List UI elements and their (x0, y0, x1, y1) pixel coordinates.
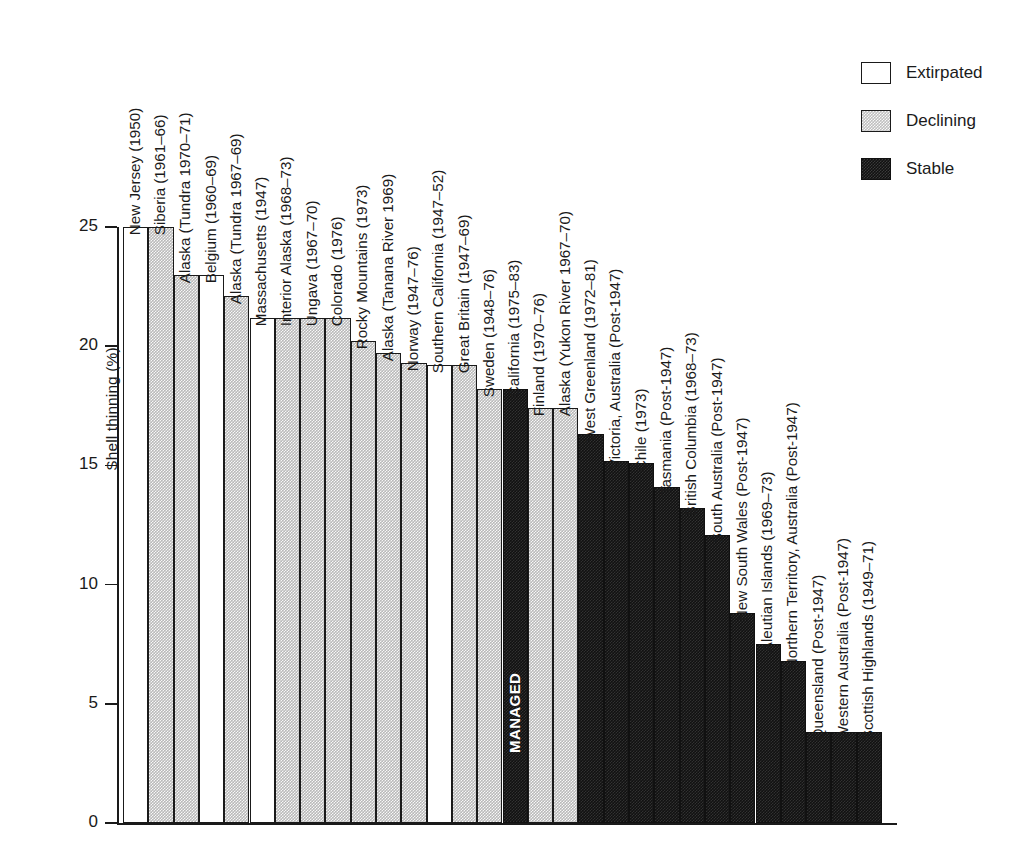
bar (452, 365, 477, 823)
bar (300, 318, 325, 823)
y-axis-tick (105, 226, 117, 228)
bar-category-label: Finland (1970–76) (531, 293, 546, 416)
legend-label-stable: Stable (906, 159, 954, 179)
bar-category-label: Colorado (1976) (329, 216, 344, 326)
shell-thinning-bar-chart: Shell thinning (%) 0510152025 Extirpated… (0, 0, 1015, 868)
y-axis-tick-label: 20 (58, 335, 98, 355)
bar (325, 318, 350, 823)
bar (148, 227, 173, 823)
bar (553, 408, 578, 823)
bar (477, 389, 502, 823)
bar (351, 341, 376, 823)
bar-category-label: Belgium (1960–69) (202, 155, 217, 283)
y-axis-tick (105, 703, 117, 705)
legend-item-declining: Declining (861, 110, 1011, 132)
bar-category-label: Victoria, Australia (Post-1947) (607, 268, 622, 469)
bar (174, 275, 199, 823)
legend-swatch-stable-icon (861, 158, 891, 180)
bar (680, 508, 705, 823)
bar (123, 227, 148, 823)
legend-label-extirpated: Extirpated (906, 63, 983, 83)
bar-category-label: Scottish Highlands (1949–71) (860, 541, 875, 740)
bar (578, 434, 603, 823)
x-axis-line (117, 823, 897, 825)
bar-category-label: Alaska (Yukon River 1967–70) (557, 211, 572, 416)
y-axis-tick (105, 345, 117, 347)
bar-category-label: Alaska (Tundra 1967–69) (228, 134, 243, 305)
bar-category-label: Northern Territory, Australia (Post-1947… (784, 402, 799, 669)
bar (224, 296, 249, 823)
bar-category-label: Chile (1973) (632, 388, 647, 471)
bar-category-label: Sweden (1948–76) (481, 269, 496, 397)
y-axis-tick (105, 822, 117, 824)
bar (730, 613, 755, 823)
bar-category-label: Queensland (Post-1947) (810, 575, 825, 740)
bar-category-label: Great Britain (1947–69) (455, 215, 470, 374)
y-axis-tick-label: 15 (58, 454, 98, 474)
bar (401, 363, 426, 823)
bar (654, 487, 679, 823)
bar-category-label: British Columbia (1968–73) (683, 332, 698, 516)
bar (427, 365, 452, 823)
bar-category-label: Southern California (1947–52) (430, 170, 445, 373)
bar (629, 463, 654, 823)
bar (199, 275, 224, 823)
bar-category-label: Ungava (1967–70) (304, 200, 319, 326)
bar (376, 353, 401, 823)
bar-category-label: Aleutian Islands (1969–73) (759, 472, 774, 653)
bar (528, 408, 553, 823)
legend-swatch-declining-icon (861, 110, 891, 132)
legend-label-declining: Declining (906, 111, 976, 131)
bar (705, 535, 730, 823)
bar (781, 661, 806, 823)
bar-category-label: Rocky Mountains (1973) (354, 185, 369, 350)
bar (831, 732, 856, 823)
y-axis-line (117, 227, 119, 824)
bar (604, 461, 629, 823)
y-axis-tick-label: 25 (58, 216, 98, 236)
bar (806, 732, 831, 823)
legend-swatch-extirpated-icon (861, 62, 891, 84)
bar-category-label: West Greenland (1972–81) (582, 260, 597, 443)
y-axis-tick-label: 5 (58, 693, 98, 713)
bar-category-label: Norway (1947–76) (405, 246, 420, 371)
bar-category-label: South Australia (Post-1947) (708, 357, 723, 543)
legend: Extirpated Declining Stable (861, 62, 1011, 206)
y-axis-tick (105, 465, 117, 467)
bar-category-label: Siberia (1961–66) (152, 114, 167, 235)
bar (250, 318, 275, 823)
legend-item-extirpated: Extirpated (861, 62, 1011, 84)
y-axis-tick-label: 10 (58, 574, 98, 594)
y-axis-tick (105, 584, 117, 586)
bar-category-label: Alaska (Tundra 1970–71) (177, 112, 192, 283)
bar-category-label: New South Wales (Post-1947) (734, 418, 749, 622)
managed-annotation: MANAGED (506, 673, 523, 753)
bar (503, 389, 528, 823)
bar-category-label: Alaska (Tanana River 1969) (379, 174, 394, 361)
bar-category-label: California (1975–83) (506, 260, 521, 398)
legend-item-stable: Stable (861, 158, 1011, 180)
bar (857, 732, 882, 823)
y-axis-tick-label: 0 (58, 812, 98, 832)
bar-category-label: Massachusetts (1947) (253, 176, 268, 325)
bar-category-label: New Jersey (1950) (126, 108, 141, 235)
bar (756, 644, 781, 823)
bar-category-label: Tasmania (Post-1947) (658, 346, 673, 495)
bar (275, 318, 300, 823)
bar-category-label: Interior Alaska (1968–73) (278, 156, 293, 326)
bar-category-label: Western Australia (Post-1947) (835, 538, 850, 740)
